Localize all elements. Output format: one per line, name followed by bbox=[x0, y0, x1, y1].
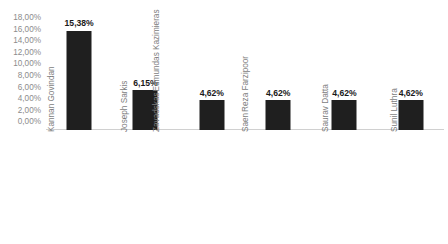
x-axis-category-label-line: Saurav Datta bbox=[321, 84, 332, 132]
bar-value-label: 4,62% bbox=[266, 89, 290, 98]
y-axis-tick-label: 18,00% bbox=[0, 14, 41, 22]
y-axis-tick-label: 0,00% bbox=[0, 118, 41, 126]
x-axis-category: Joseph Sarkis bbox=[112, 132, 178, 244]
bar[interactable] bbox=[398, 100, 423, 130]
bar-group: 4,62% bbox=[245, 14, 311, 130]
x-axis-category-label-line: Joseph Sarkis bbox=[120, 81, 131, 132]
x-axis-category: Kannan Govindan bbox=[46, 132, 112, 244]
x-axis-category: Edmundas Kazimieras Zavadskas bbox=[179, 132, 245, 244]
bar-chart: 18,00% 16,00% 14,00% 12,00% 10,00% 8,00%… bbox=[0, 0, 448, 244]
x-axis-category: Reza Farzipoor Saen bbox=[245, 132, 311, 244]
bar[interactable] bbox=[67, 31, 92, 130]
x-axis-category-label: Kannan Govindan bbox=[46, 66, 57, 132]
bar-value-label: 15,38% bbox=[65, 19, 94, 28]
y-axis-tick-label: 6,00% bbox=[0, 84, 41, 92]
x-axis-category-label-line: Sunil Luthra bbox=[389, 88, 400, 132]
y-axis-tick-label: 14,00% bbox=[0, 37, 41, 45]
x-axis-category: Saurav Datta bbox=[311, 132, 377, 244]
bar[interactable] bbox=[199, 100, 224, 130]
y-axis-tick-label: 2,00% bbox=[0, 107, 41, 115]
y-axis-tick-label: 16,00% bbox=[0, 26, 41, 34]
y-axis-tick-label: 8,00% bbox=[0, 72, 41, 80]
x-axis-category-label: Edmundas Kazimieras Zavadskas bbox=[151, 9, 162, 132]
x-axis-category: Sunil Luthra bbox=[378, 132, 444, 244]
y-axis: 18,00% 16,00% 14,00% 12,00% 10,00% 8,00%… bbox=[0, 0, 44, 244]
y-axis-tick-label: 10,00% bbox=[0, 60, 41, 68]
x-axis-category-label: Reza Farzipoor Saen bbox=[240, 56, 251, 132]
bar-value-label: 4,62% bbox=[399, 89, 423, 98]
x-axis-category-label-line: Edmundas Kazimieras bbox=[151, 9, 162, 91]
bar-value-label: 4,62% bbox=[200, 89, 224, 98]
x-axis-category-label: Sunil Luthra bbox=[389, 88, 400, 132]
x-axis-category-label-line: Saen bbox=[240, 113, 251, 132]
bar-group: 4,62% bbox=[179, 14, 245, 130]
x-axis-category-label-line: Zavadskas bbox=[151, 92, 162, 132]
x-axis: Kannan Govindan Joseph Sarkis Edmundas K… bbox=[46, 132, 444, 244]
x-axis-category-label-line: Kannan Govindan bbox=[46, 66, 57, 132]
x-axis-category-label-line: Reza Farzipoor bbox=[240, 56, 251, 112]
x-axis-category-label: Joseph Sarkis bbox=[120, 81, 131, 132]
y-axis-tick-label: 12,00% bbox=[0, 49, 41, 57]
bar-group: 4,62% bbox=[378, 14, 444, 130]
y-axis-tick-label: 4,00% bbox=[0, 95, 41, 103]
bar-value-label: 4,62% bbox=[332, 89, 356, 98]
bar[interactable] bbox=[332, 100, 357, 130]
x-axis-category-label: Saurav Datta bbox=[321, 84, 332, 132]
bar[interactable] bbox=[266, 100, 291, 130]
